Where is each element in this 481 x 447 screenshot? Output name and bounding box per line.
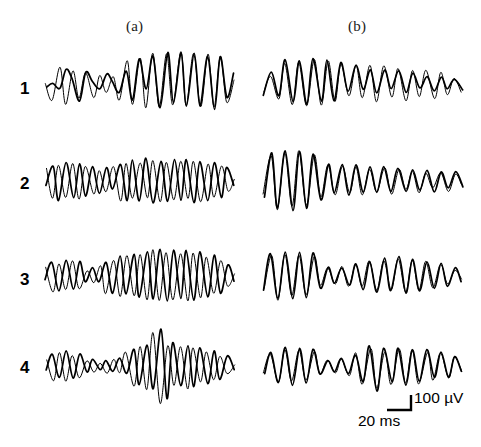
- waveform-svg-1a: [46, 42, 234, 130]
- trace-panel-3b: [264, 233, 462, 321]
- trace-panel-2a: [46, 138, 234, 226]
- trace-panel-2b: [264, 138, 462, 226]
- waveform-svg-3b: [264, 233, 462, 321]
- waveform-trace-2b-trace-2: [263, 151, 461, 210]
- scale-bar-path: [387, 395, 411, 410]
- scale-bar: [386, 394, 416, 412]
- waveform-trace-1a-trace-1: [47, 52, 234, 109]
- waveform-trace-2b-trace-1: [264, 151, 462, 211]
- waveform-trace-1b-trace-1: [263, 59, 462, 105]
- trace-panel-1b: [264, 42, 462, 130]
- scale-bar-time-label: 20 ms: [358, 412, 400, 430]
- waveform-trace-4a-trace-1: [46, 329, 234, 399]
- waveform-trace-1b-trace-2: [264, 59, 461, 105]
- trace-panel-1a: [46, 42, 234, 130]
- waveform-svg-2b: [264, 138, 462, 226]
- row-label-4: 4: [20, 358, 29, 378]
- waveform-svg-2a: [46, 138, 234, 226]
- column-header-a: (a): [126, 18, 143, 35]
- waveform-svg-1b: [264, 42, 462, 130]
- row-label-1: 1: [20, 79, 29, 99]
- trace-panel-4a: [46, 323, 234, 411]
- column-header-b: (b): [348, 18, 366, 35]
- figure-panel: (a) (b) 1 2 3 4 100 µV 20 ms: [0, 0, 481, 447]
- waveform-svg-4a: [46, 323, 234, 411]
- trace-panel-3a: [46, 233, 234, 321]
- waveform-trace-4a-trace-2: [47, 333, 235, 404]
- row-label-3: 3: [20, 270, 29, 290]
- waveform-trace-4b-trace-1: [265, 346, 462, 391]
- waveform-trace-2a-trace-1: [46, 158, 234, 203]
- scale-bar-voltage-label: 100 µV: [414, 389, 463, 407]
- waveform-svg-3a: [46, 233, 234, 321]
- row-label-2: 2: [20, 174, 29, 194]
